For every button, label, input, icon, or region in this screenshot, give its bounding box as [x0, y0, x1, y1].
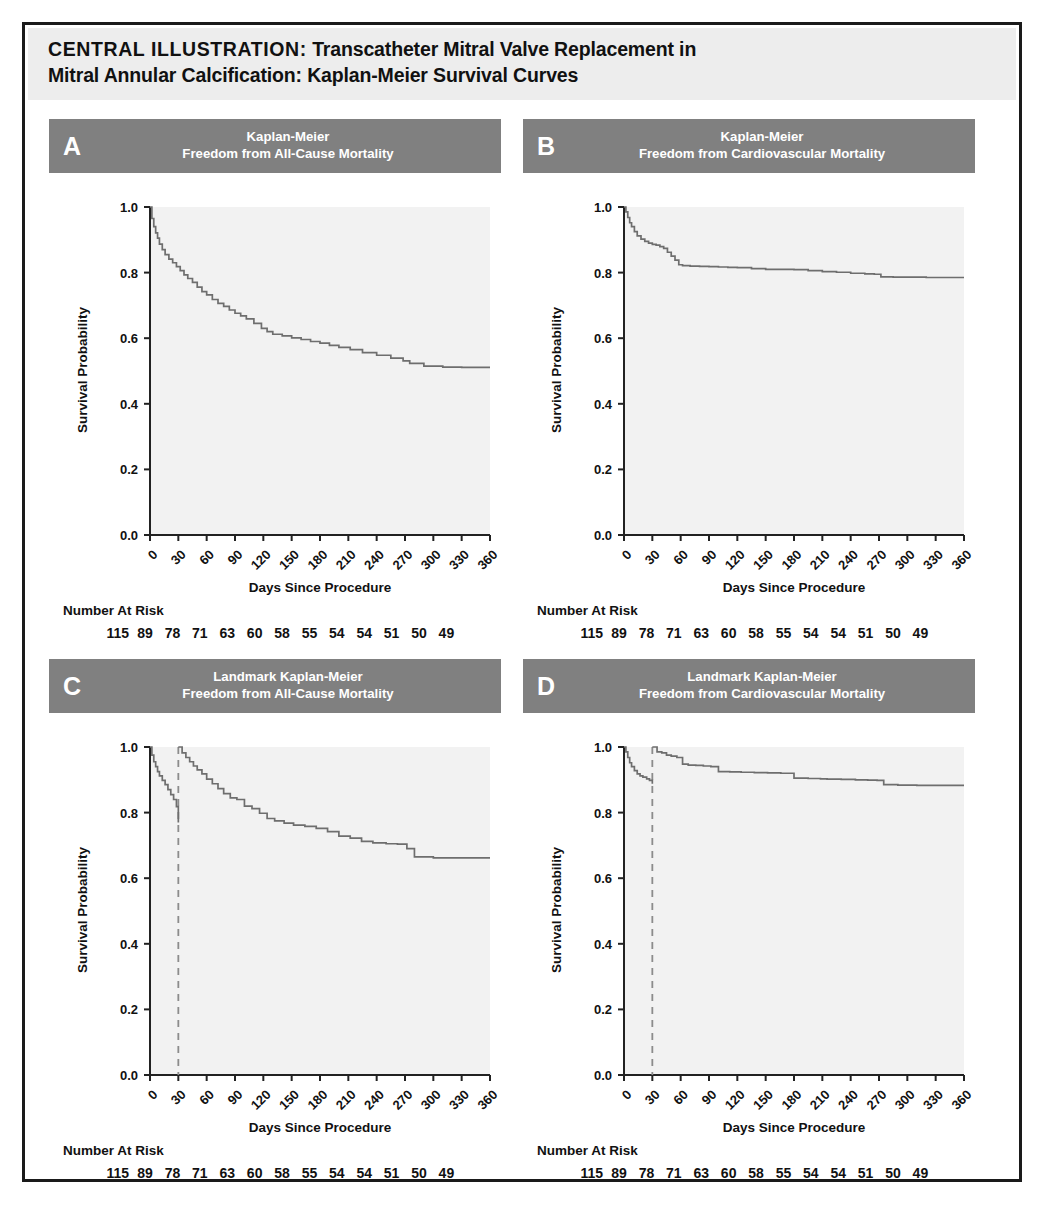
x-tick-label: 60 — [670, 1087, 691, 1108]
x-tick-label: 330 — [920, 1087, 946, 1113]
x-tick-label: 240 — [361, 1087, 387, 1113]
x-tick-label: 90 — [699, 547, 720, 568]
figure-title-line2: Mitral Annular Calcification: Kaplan-Mei… — [48, 64, 578, 86]
plot-panel-b: 0.00.20.40.60.81.00306090120150180210240… — [523, 177, 975, 597]
y-tick-label: 0.6 — [594, 871, 612, 886]
risk-values-c: 115897871636058555454515049 — [104, 1165, 460, 1181]
x-tick-label: 270 — [863, 547, 889, 573]
x-tick-label: 300 — [418, 547, 444, 573]
risk-value: 63 — [214, 625, 241, 641]
x-tick-label: 180 — [304, 1087, 330, 1113]
kaplan-meier-plot-d: 0.00.20.40.60.81.00306090120150180210240… — [523, 717, 975, 1137]
plot-area-background — [150, 207, 490, 535]
risk-label-a: Number At Risk — [63, 603, 164, 618]
y-tick-label: 0.6 — [120, 871, 138, 886]
kaplan-meier-plot-a: 0.00.20.40.60.81.00306090120150180210240… — [49, 177, 501, 597]
panel-header-c: C Landmark Kaplan-Meier Freedom from All… — [49, 659, 501, 713]
risk-value: 51 — [852, 1165, 879, 1181]
x-tick-label: 90 — [225, 547, 246, 568]
panel-title-b-line1: Kaplan-Meier — [721, 129, 804, 144]
risk-value: 49 — [433, 625, 460, 641]
x-tick-label: 330 — [920, 547, 946, 573]
risk-value: 71 — [660, 625, 687, 641]
figure-title-rest: Transcatheter Mitral Valve Replacement i… — [307, 38, 696, 60]
x-tick-label: 180 — [778, 1087, 804, 1113]
panel-header-a: A Kaplan-Meier Freedom from All-Cause Mo… — [49, 119, 501, 173]
x-tick-label: 0 — [145, 547, 161, 563]
panel-title-a: Kaplan-Meier Freedom from All-Cause Mort… — [49, 129, 501, 163]
risk-value: 60 — [241, 1165, 268, 1181]
risk-value: 54 — [825, 1165, 852, 1181]
x-tick-label: 120 — [722, 547, 748, 573]
x-axis-title: Days Since Procedure — [150, 1120, 490, 1135]
risk-value: 63 — [688, 1165, 715, 1181]
risk-value: 89 — [605, 625, 632, 641]
panel-header-d: D Landmark Kaplan-Meier Freedom from Car… — [523, 659, 975, 713]
y-tick-label: 0.2 — [594, 462, 612, 477]
plot-area-background — [624, 747, 964, 1075]
risk-value: 58 — [742, 625, 769, 641]
risk-label-c: Number At Risk — [63, 1143, 164, 1158]
plot-panel-a: 0.00.20.40.60.81.00306090120150180210240… — [49, 177, 501, 597]
panel-title-b: Kaplan-Meier Freedom from Cardiovascular… — [523, 129, 975, 163]
x-tick-label: 60 — [196, 547, 217, 568]
risk-value: 78 — [159, 1165, 186, 1181]
panel-title-c-line2: Freedom from All-Cause Mortality — [182, 686, 393, 701]
x-tick-label: 210 — [807, 547, 833, 573]
panel-title-c: Landmark Kaplan-Meier Freedom from All-C… — [49, 669, 501, 703]
panel-title-c-line1: Landmark Kaplan-Meier — [213, 669, 363, 684]
figure-title: CENTRAL ILLUSTRATION: Transcatheter Mitr… — [48, 37, 998, 88]
panel-title-d-line2: Freedom from Cardiovascular Mortality — [639, 686, 885, 701]
risk-value: 54 — [797, 1165, 824, 1181]
risk-value: 60 — [715, 1165, 742, 1181]
risk-value: 71 — [660, 1165, 687, 1181]
x-tick-label: 30 — [642, 1087, 663, 1108]
y-tick-label: 0.0 — [594, 528, 612, 543]
y-tick-label: 0.0 — [594, 1068, 612, 1083]
risk-value: 49 — [907, 625, 934, 641]
y-tick-label: 0.6 — [120, 331, 138, 346]
x-axis-title: Days Since Procedure — [150, 580, 490, 595]
risk-values-b: 115897871636058555454515049 — [578, 625, 934, 641]
y-tick-label: 0.4 — [120, 937, 139, 952]
x-axis-title: Days Since Procedure — [624, 580, 964, 595]
plot-panel-d: 0.00.20.40.60.81.00306090120150180210240… — [523, 717, 975, 1137]
risk-value: 58 — [268, 625, 295, 641]
risk-value: 50 — [405, 1165, 432, 1181]
y-tick-label: 0.2 — [120, 1002, 138, 1017]
risk-value: 89 — [131, 625, 158, 641]
panel-title-a-line1: Kaplan-Meier — [247, 129, 330, 144]
risk-value: 54 — [351, 625, 378, 641]
x-tick-label: 330 — [446, 1087, 472, 1113]
y-tick-label: 1.0 — [594, 200, 612, 215]
x-tick-label: 180 — [778, 547, 804, 573]
y-tick-label: 0.4 — [594, 397, 613, 412]
risk-value: 89 — [131, 1165, 158, 1181]
risk-value: 115 — [104, 1165, 131, 1181]
panel-title-a-line2: Freedom from All-Cause Mortality — [182, 146, 393, 161]
risk-value: 54 — [323, 1165, 350, 1181]
x-tick-label: 90 — [699, 1087, 720, 1108]
x-tick-label: 30 — [642, 547, 663, 568]
panel-title-d: Landmark Kaplan-Meier Freedom from Cardi… — [523, 669, 975, 703]
risk-value: 50 — [879, 1165, 906, 1181]
risk-value: 50 — [405, 625, 432, 641]
x-tick-label: 120 — [248, 1087, 274, 1113]
risk-value: 63 — [688, 625, 715, 641]
risk-value: 115 — [104, 625, 131, 641]
risk-value: 55 — [770, 1165, 797, 1181]
y-tick-label: 0.8 — [594, 806, 612, 821]
x-tick-label: 270 — [863, 1087, 889, 1113]
y-tick-label: 1.0 — [120, 740, 138, 755]
risk-value: 115 — [578, 625, 605, 641]
risk-value: 54 — [797, 625, 824, 641]
y-tick-label: 0.8 — [120, 806, 138, 821]
risk-value: 78 — [633, 1165, 660, 1181]
risk-value: 51 — [378, 1165, 405, 1181]
x-tick-label: 120 — [722, 1087, 748, 1113]
x-tick-label: 330 — [446, 547, 472, 573]
x-tick-label: 270 — [389, 1087, 415, 1113]
risk-value: 49 — [907, 1165, 934, 1181]
plot-panel-c: 0.00.20.40.60.81.00306090120150180210240… — [49, 717, 501, 1137]
risk-value: 55 — [770, 625, 797, 641]
